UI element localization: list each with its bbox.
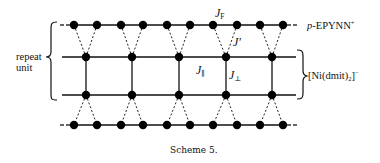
jperp-sub: ⊥ xyxy=(234,74,241,83)
anion-node xyxy=(128,91,136,99)
anion-node xyxy=(82,91,90,99)
jprime-link xyxy=(260,95,272,125)
cation-node xyxy=(117,21,125,29)
anion-node xyxy=(175,91,183,99)
cation-node xyxy=(209,21,217,29)
jprime-link xyxy=(226,95,237,125)
jf-sub: F xyxy=(220,12,224,21)
anion-node xyxy=(128,53,136,61)
jprime-link xyxy=(167,95,179,125)
jprime-link xyxy=(121,25,132,57)
jprime-link xyxy=(132,95,143,125)
anion-node xyxy=(222,53,230,61)
cation-name: -EPYNN xyxy=(312,20,351,31)
repeat-unit-line2: unit xyxy=(16,62,42,73)
jprime-link xyxy=(272,95,283,125)
repeat-unit-line1: repeat xyxy=(16,51,42,62)
jprime-link xyxy=(74,25,86,57)
jprime-link xyxy=(167,25,179,57)
right-brace xyxy=(297,50,307,99)
cation-node xyxy=(279,121,287,129)
jpar-sub: ∥ xyxy=(201,69,204,78)
anion-node xyxy=(268,53,276,61)
cation-charge: + xyxy=(351,19,355,26)
jprime-link xyxy=(74,95,86,125)
jprime-link xyxy=(121,95,132,125)
cation-node xyxy=(70,121,78,129)
anion-open: [Ni(dmit) xyxy=(308,70,348,81)
jprime-link xyxy=(272,25,283,57)
cation-node xyxy=(233,121,241,129)
coupling-jf-label: JF xyxy=(215,7,224,21)
jprime-link xyxy=(179,95,190,125)
anion-node xyxy=(175,53,183,61)
jprime-link xyxy=(132,25,143,57)
anion-node xyxy=(268,91,276,99)
cation-node xyxy=(163,21,171,29)
jprime-link xyxy=(86,95,97,125)
cation-node xyxy=(139,121,147,129)
jprime-main: J' xyxy=(233,35,241,49)
anion-node xyxy=(82,53,90,61)
anion-label: [Ni(dmit)2]− xyxy=(308,70,359,82)
cation-node xyxy=(209,121,217,129)
cation-node xyxy=(233,21,241,29)
anion-charge: − xyxy=(355,69,359,76)
cation-node xyxy=(139,21,147,29)
cation-node xyxy=(93,21,101,29)
anion-node xyxy=(222,91,230,99)
jprime-link xyxy=(213,95,226,125)
cation-label: p-EPYNN+ xyxy=(307,20,354,31)
cation-node xyxy=(256,21,264,29)
cation-node xyxy=(256,121,264,129)
cation-node xyxy=(70,21,78,29)
repeat-unit-label: repeat unit xyxy=(16,51,42,73)
jprime-link xyxy=(179,25,190,57)
cation-node xyxy=(186,121,194,129)
solid-links xyxy=(60,25,297,125)
cation-node xyxy=(279,21,287,29)
coupling-jprime-label: J' xyxy=(233,36,241,48)
jprime-link xyxy=(260,25,272,57)
coupling-jpar-label: J∥ xyxy=(196,64,205,78)
cation-node xyxy=(117,121,125,129)
scheme-caption: Scheme 5. xyxy=(170,146,218,155)
cation-node xyxy=(186,21,194,29)
left-brace xyxy=(46,22,57,100)
cation-node xyxy=(163,121,171,129)
jprime-link xyxy=(213,25,226,57)
jprime-link xyxy=(86,25,97,57)
cation-node xyxy=(93,121,101,129)
coupling-jperp-label: J⊥ xyxy=(229,69,241,83)
